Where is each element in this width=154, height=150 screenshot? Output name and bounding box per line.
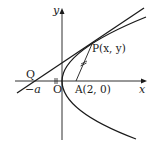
origin-label: O xyxy=(53,83,62,96)
y-axis-label: y xyxy=(52,4,60,17)
point-q-label: Q xyxy=(26,68,35,81)
x-axis-label: x xyxy=(139,83,146,96)
neg-a-label: −a xyxy=(25,83,41,96)
point-p-label: P(x, y) xyxy=(92,42,126,54)
diagram-canvas: y x O Q −a A(2, 0) P(x, y) xyxy=(0,0,154,150)
point-a-label: A(2, 0) xyxy=(74,83,111,95)
y-axis-arrow-icon xyxy=(60,8,65,14)
